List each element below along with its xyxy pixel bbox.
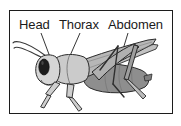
middle-leg-group xyxy=(67,84,82,111)
antennae-group xyxy=(13,42,46,59)
label-abdomen: Abdomen xyxy=(108,17,163,32)
antenna-upper-icon xyxy=(13,42,46,56)
figure-root: Head Thorax Abdomen xyxy=(0,0,181,126)
middle-leg-tibia xyxy=(69,97,82,111)
label-thorax: Thorax xyxy=(59,17,99,32)
front-leg-group xyxy=(41,82,60,108)
compound-eye-icon xyxy=(39,59,49,75)
eye-highlight xyxy=(41,61,43,65)
label-head: Head xyxy=(19,17,50,32)
grasshopper-diagram: Head Thorax Abdomen xyxy=(0,0,181,126)
middle-leg-femur xyxy=(67,84,74,98)
front-leg-tibia xyxy=(41,95,51,108)
